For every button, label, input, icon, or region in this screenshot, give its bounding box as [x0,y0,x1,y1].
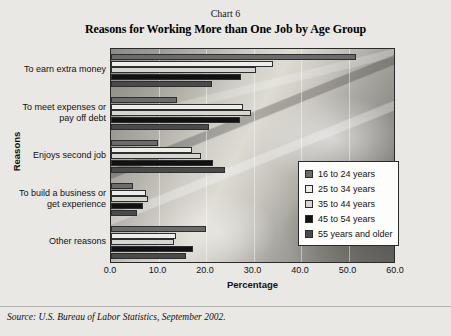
legend-item[interactable]: 16 to 24 years [305,166,393,181]
bar [111,183,133,189]
legend-item-label: 16 to 24 years [318,169,375,179]
bar [111,233,176,239]
legend-item[interactable]: 55 years and older [305,226,393,241]
legend-item-label: 55 years and older [318,229,393,239]
x-axis-ticks: 0.010.020.030.040.050.060.0 [110,265,395,279]
bar [111,196,148,202]
bar [111,67,256,73]
category-label: To build a business orget experience [2,188,106,209]
bar [111,110,251,116]
legend-item-label: 25 to 34 years [318,184,375,194]
chart-page: Chart 6 Reasons for Working More than On… [0,0,451,336]
bar [111,246,193,252]
bar [111,124,209,130]
legend-swatch-icon [305,230,313,238]
legend-item[interactable]: 45 to 54 years [305,211,393,226]
legend-item[interactable]: 25 to 34 years [305,181,393,196]
bar [111,104,243,110]
legend-swatch-icon [305,185,313,193]
x-tick-label: 60.0 [375,265,415,275]
legend-swatch-icon [305,170,313,178]
bar [111,54,356,60]
x-tick-label: 10.0 [138,265,178,275]
x-tick-label: 30.0 [233,265,273,275]
bar [111,147,192,153]
legend: 16 to 24 years25 to 34 years35 to 44 yea… [298,161,399,246]
bar [111,190,146,196]
bar [111,74,241,80]
bar-group [111,97,394,129]
legend-item-label: 45 to 54 years [318,214,375,224]
bar [111,117,240,123]
bar [111,153,201,159]
category-label: To earn extra money [2,64,106,75]
y-axis-title: Reasons [11,117,22,187]
bar [111,203,143,209]
bar [111,140,158,146]
bar [111,210,137,216]
footer-divider [0,306,451,307]
bar [111,253,186,259]
bar [111,226,206,232]
bar [111,239,174,245]
bar [111,61,273,67]
source-note: Source: U.S. Bureau of Labor Statistics,… [7,312,226,322]
x-axis-title: Percentage [110,279,395,290]
x-tick-label: 50.0 [328,265,368,275]
bar [111,160,213,166]
x-tick-label: 0.0 [90,265,130,275]
x-tick-label: 40.0 [280,265,320,275]
legend-swatch-icon [305,200,313,208]
legend-item-label: 35 to 44 years [318,199,375,209]
x-tick-label: 20.0 [185,265,225,275]
bar [111,81,212,87]
legend-item[interactable]: 35 to 44 years [305,196,393,211]
bar-group [111,54,394,86]
category-label: Other reasons [2,236,106,247]
bar [111,167,225,173]
legend-swatch-icon [305,215,313,223]
bar [111,97,177,103]
